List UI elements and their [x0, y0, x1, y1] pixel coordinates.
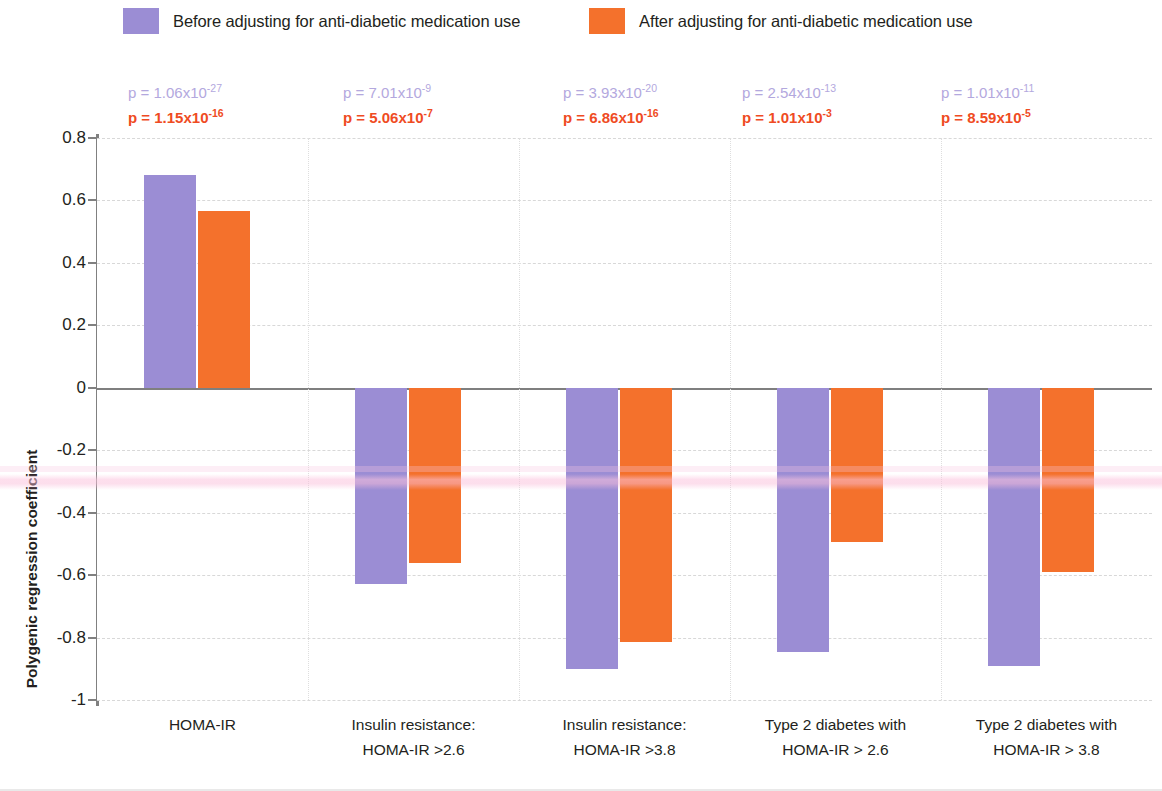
gridline: [97, 138, 1152, 139]
pvalue-before-exponent: -13: [821, 82, 836, 94]
bar-after: [198, 211, 250, 387]
pvalue-after: p = 1.01x10-3: [742, 103, 972, 128]
category-separator: [730, 138, 731, 700]
legend-swatch-after: [589, 8, 625, 34]
category-separator: [941, 138, 942, 700]
bar-before: [144, 175, 196, 387]
chart-legend: Before adjusting for anti-diabetic medic…: [0, 6, 1162, 40]
pvalue-group: p = 2.54x10-13p = 1.01x10-3: [742, 78, 972, 128]
gridline: [97, 200, 1152, 201]
pvalue-before-exponent: -9: [422, 82, 431, 94]
y-axis-tick-mark: [88, 449, 97, 451]
category-label-line1: HOMA-IR: [97, 712, 308, 737]
category-label: Insulin resistance:HOMA-IR >3.8: [519, 712, 730, 762]
gridline: [97, 263, 1152, 264]
category-separator: [308, 138, 309, 700]
pvalue-after: p = 1.15x10-16: [128, 103, 358, 128]
bar-before: [777, 388, 829, 652]
y-axis-tick-mark: [88, 262, 97, 264]
category-label: HOMA-IR: [97, 712, 308, 737]
plot-area: [97, 138, 1152, 700]
legend-label-after: After adjusting for anti-diabetic medica…: [639, 12, 973, 31]
category-label-line2: HOMA-IR > 3.8: [941, 737, 1152, 762]
y-axis-tick-mark: [88, 199, 97, 201]
pvalue-before: p = 1.01x10-11: [941, 78, 1162, 103]
pvalue-after-exponent: -3: [822, 107, 831, 119]
y-axis-tick-label: 0.8: [22, 128, 86, 148]
pvalue-before: p = 7.01x10-9: [343, 78, 573, 103]
category-label-line2: HOMA-IR >3.8: [519, 737, 730, 762]
pvalue-before-exponent: -27: [207, 82, 222, 94]
bar-after: [1042, 388, 1094, 572]
category-label-line2: HOMA-IR > 2.6: [730, 737, 941, 762]
pvalue-group: p = 7.01x10-9p = 5.06x10-7: [343, 78, 573, 128]
pvalue-group: p = 1.01x10-11p = 8.59x10-5: [941, 78, 1162, 128]
category-label-line1: Insulin resistance:: [308, 712, 519, 737]
category-separator: [519, 138, 520, 700]
pvalue-before: p = 2.54x10-13: [742, 78, 972, 103]
pvalue-after-exponent: -5: [1021, 107, 1030, 119]
y-axis-tick-label: 0.6: [22, 190, 86, 210]
bar-after: [409, 388, 461, 563]
pvalue-before-exponent: -20: [642, 82, 657, 94]
y-axis-title-wrapper: Polygenic regression coefficient: [14, 260, 44, 560]
pvalue-before: p = 1.06x10-27: [128, 78, 358, 103]
pvalue-after: p = 8.59x10-5: [941, 103, 1162, 128]
pvalue-after: p = 5.06x10-7: [343, 103, 573, 128]
y-axis-tick-mark: [88, 387, 97, 389]
legend-item-after: After adjusting for anti-diabetic medica…: [589, 8, 973, 34]
bar-before: [355, 388, 407, 585]
category-label-line1: Type 2 diabetes with: [941, 712, 1152, 737]
bar-after: [831, 388, 883, 543]
category-label-line2: HOMA-IR >2.6: [308, 737, 519, 762]
pvalue-annotations: p = 1.06x10-27p = 1.15x10-16p = 7.01x10-…: [0, 78, 1162, 126]
legend-swatch-before: [123, 8, 159, 34]
bar-before: [566, 388, 618, 669]
pvalue-after-exponent: -7: [423, 107, 432, 119]
pvalue-before-exponent: -11: [1020, 82, 1034, 94]
category-label-line1: Insulin resistance:: [519, 712, 730, 737]
pvalue-group: p = 1.06x10-27p = 1.15x10-16: [128, 78, 358, 128]
y-axis-tick-mark: [88, 574, 97, 576]
pvalue-after-exponent: -16: [643, 107, 658, 119]
y-axis-tick-mark: [88, 699, 97, 701]
category-label-line1: Type 2 diabetes with: [730, 712, 941, 737]
y-axis-tick-mark: [88, 637, 97, 639]
y-axis-tick-mark: [88, 512, 97, 514]
legend-label-before: Before adjusting for anti-diabetic medic…: [173, 12, 520, 31]
y-axis-title: Polygenic regression coefficient: [23, 439, 41, 699]
category-label: Type 2 diabetes withHOMA-IR > 3.8: [941, 712, 1152, 762]
y-axis-tick-mark: [88, 137, 97, 139]
gridline: [97, 700, 1152, 701]
legend-item-before: Before adjusting for anti-diabetic medic…: [123, 8, 520, 34]
category-label: Type 2 diabetes withHOMA-IR > 2.6: [730, 712, 941, 762]
category-label: Insulin resistance:HOMA-IR >2.6: [308, 712, 519, 762]
bar-before: [988, 388, 1040, 666]
x-axis-category-labels: HOMA-IRInsulin resistance:HOMA-IR >2.6In…: [97, 712, 1152, 782]
bar-after: [620, 388, 672, 642]
gridline: [97, 325, 1152, 326]
y-axis-tick-mark: [88, 324, 97, 326]
pvalue-after-exponent: -16: [208, 107, 223, 119]
